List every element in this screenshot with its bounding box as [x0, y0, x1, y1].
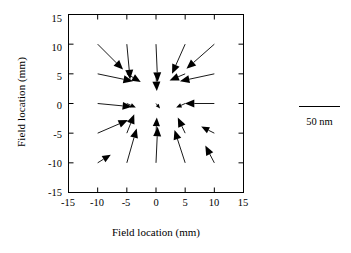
- y-tick-label: -5: [34, 130, 62, 140]
- y-tick-label: -10: [34, 159, 62, 169]
- scale-bar-label: 50 nm: [286, 116, 351, 127]
- x-tick-label: -10: [84, 198, 110, 208]
- y-tick-label: -15: [34, 188, 62, 198]
- y-tick-label: 5: [34, 72, 62, 82]
- x-tick-label: 5: [172, 198, 198, 208]
- y-tick-label: 15: [34, 14, 62, 24]
- scale-bar-icon: [299, 106, 340, 107]
- y-axis-tick-labels: 15 10 5 0 -5 -10 -15: [32, 0, 62, 253]
- x-tick-label: -15: [55, 198, 81, 208]
- x-axis-tick-labels: -15 -10 -5 0 5 10 15: [0, 198, 351, 214]
- y-axis-title: Field location (mm): [15, 27, 27, 177]
- x-tick-label: 15: [230, 198, 256, 208]
- x-axis-title: Field location (mm): [68, 226, 244, 238]
- x-tick-label: 10: [201, 198, 227, 208]
- y-tick-label: 0: [34, 101, 62, 111]
- y-tick-label: 10: [34, 43, 62, 53]
- x-tick-label: -5: [113, 198, 139, 208]
- figure-container: Field location (mm) 15 10 5 0 -5 -10 -15…: [0, 0, 351, 253]
- x-tick-label: 0: [143, 198, 169, 208]
